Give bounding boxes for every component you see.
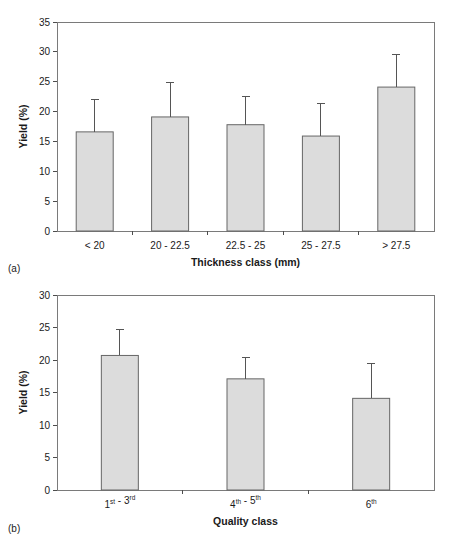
x-axis-category-label: 6th	[366, 498, 377, 510]
y-axis-tick-label: 5	[44, 452, 50, 463]
x-axis-category-label: > 27.5	[382, 240, 411, 251]
panel-tag: (b)	[8, 523, 20, 534]
x-axis-category-label: 1st - 3rd	[104, 494, 135, 510]
y-axis-title: Yield (%)	[17, 105, 29, 149]
bar	[227, 125, 264, 231]
x-axis-title: Quality class	[213, 515, 278, 527]
y-axis-tick-label: 10	[39, 420, 51, 431]
x-axis-category-label: 4th - 5th	[230, 494, 261, 510]
bar	[378, 87, 415, 231]
y-axis-tick-label: 15	[39, 387, 51, 398]
y-axis-tick-label: 30	[39, 290, 51, 301]
y-axis-tick-label: 35	[39, 17, 51, 28]
y-axis-tick-label: 0	[44, 226, 50, 237]
y-axis-tick-label: 5	[44, 196, 50, 207]
y-axis-tick-label: 10	[39, 166, 51, 177]
bar	[76, 132, 113, 231]
bar	[353, 398, 390, 490]
panel-tag: (a)	[8, 263, 20, 274]
bar	[101, 355, 138, 490]
bar-chart-a: 05101520253035Yield (%)< 2020 - 22.522.5…	[0, 0, 460, 280]
x-axis-category-label: 25 - 27.5	[301, 240, 341, 251]
x-axis-category-label: 22.5 - 25	[226, 240, 266, 251]
figure-container: 05101520253035Yield (%)< 2020 - 22.522.5…	[0, 0, 460, 541]
y-axis-tick-label: 25	[39, 76, 51, 87]
y-axis-tick-label: 15	[39, 136, 51, 147]
y-axis-tick-label: 0	[44, 485, 50, 496]
y-axis-tick-label: 30	[39, 46, 51, 57]
bar	[302, 136, 339, 231]
x-axis-title: Thickness class (mm)	[191, 256, 300, 268]
x-axis-category-label: 20 - 22.5	[150, 240, 190, 251]
chart-panel-b: 051015202530Yield (%)1st - 3rd4th - 5th6…	[0, 275, 460, 541]
chart-panel-a: 05101520253035Yield (%)< 2020 - 22.522.5…	[0, 0, 460, 280]
bar	[227, 379, 264, 490]
y-axis-tick-label: 20	[39, 106, 51, 117]
y-axis-tick-label: 25	[39, 322, 51, 333]
x-axis-category-label: < 20	[85, 240, 105, 251]
bar	[152, 117, 189, 231]
bar-chart-b: 051015202530Yield (%)1st - 3rd4th - 5th6…	[0, 275, 460, 541]
y-axis-title: Yield (%)	[17, 371, 29, 415]
y-axis-tick-label: 20	[39, 355, 51, 366]
